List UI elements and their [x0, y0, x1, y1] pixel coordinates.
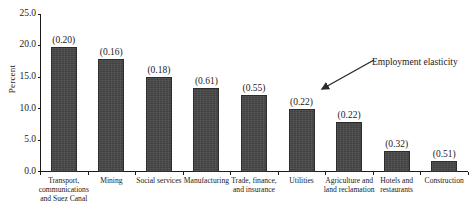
x-tick-mark [230, 172, 231, 175]
bar [241, 95, 267, 172]
x-tick-mark [183, 172, 184, 175]
bar-group: (0.51) [420, 14, 468, 172]
bar-value-label: (0.18) [147, 65, 170, 75]
x-tick-mark [325, 172, 326, 175]
y-tick-label: 10.0 [8, 104, 36, 114]
x-tick-mark [88, 172, 89, 175]
bar-value-label: (0.22) [290, 97, 313, 107]
bar [289, 109, 315, 172]
bar-value-label: (0.55) [243, 83, 266, 93]
x-tick-mark [135, 172, 136, 175]
bar-group: (0.18) [135, 14, 183, 172]
bar-value-label: (0.61) [195, 76, 218, 86]
bar [384, 151, 410, 172]
y-axis-tick-labels: 25.0 20.0 15.0 10.0 5.0 0.0 [6, 0, 36, 214]
bar-group: (0.22) [325, 14, 373, 172]
y-tick-label: 15.0 [8, 72, 36, 82]
bar-group: (0.32) [373, 14, 421, 172]
bar-value-label: (0.32) [385, 139, 408, 149]
bar-value-label: (0.51) [433, 149, 456, 159]
y-tick-label: 25.0 [8, 9, 36, 19]
bar [336, 122, 362, 172]
bar [51, 47, 77, 172]
bar-group: (0.61) [183, 14, 231, 172]
bar [193, 88, 219, 172]
plot-area: (0.20) (0.16) (0.18) (0.61) (0.55) (0.22… [40, 14, 468, 172]
bar-value-label: (0.16) [100, 47, 123, 57]
y-tick-label: 20.0 [8, 40, 36, 50]
bar-chart-figure: Percent 25.0 20.0 15.0 10.0 5.0 0.0 (0.2… [0, 0, 476, 214]
bar [431, 161, 457, 172]
x-axis-category-labels: Transport, communications and Suez Canal… [40, 176, 476, 214]
bar [146, 77, 172, 172]
x-category-label: Construction [416, 176, 472, 185]
x-tick-mark [420, 172, 421, 175]
y-tick-label: 0.0 [8, 167, 36, 177]
bar-group: (0.55) [230, 14, 278, 172]
bar-value-label: (0.20) [52, 35, 75, 45]
bar-value-label: (0.22) [338, 110, 361, 120]
annotation-label: Employment elasticity [372, 57, 458, 68]
bar-group: (0.16) [88, 14, 136, 172]
x-tick-mark [40, 172, 41, 175]
x-tick-mark [373, 172, 374, 175]
bar [98, 59, 124, 172]
y-tick-label: 5.0 [8, 135, 36, 145]
bar-group: (0.20) [40, 14, 88, 172]
x-tick-mark [278, 172, 279, 175]
x-tick-mark [468, 172, 469, 175]
bar-group: (0.22) [278, 14, 326, 172]
